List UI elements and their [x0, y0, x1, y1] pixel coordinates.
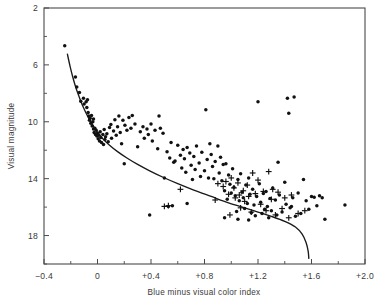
color-magnitude-diagram: −0.40+0.4+0.8+1.2+1.6+2.0 26101418 Blue … — [0, 0, 383, 305]
data-point-dot — [235, 210, 239, 214]
data-point-dot — [86, 98, 90, 102]
data-point-dot — [120, 142, 124, 146]
data-point-dot — [173, 159, 177, 163]
data-point-dot — [131, 114, 135, 118]
data-point-dot — [343, 203, 347, 207]
data-point-dot — [283, 180, 287, 184]
data-point-dot — [86, 111, 90, 115]
data-point-dot — [184, 171, 188, 175]
data-point-dot — [90, 114, 94, 118]
data-point-dot — [247, 218, 251, 222]
data-point-dot — [99, 136, 103, 140]
data-point-dot — [200, 151, 204, 155]
data-point-dot — [204, 108, 208, 112]
y-axis-label: Visual magnitude — [7, 102, 16, 169]
data-point-dot — [117, 114, 121, 118]
data-point-dot — [290, 205, 294, 209]
data-point-dot — [102, 128, 106, 132]
data-point-dot — [123, 124, 127, 128]
x-tick-label: +1.6 — [303, 271, 321, 281]
data-point-dot — [102, 143, 106, 147]
data-point-dot — [92, 117, 96, 121]
x-tick-label: +2.0 — [356, 271, 374, 281]
data-point-dot — [209, 153, 213, 157]
data-point-dot — [266, 205, 270, 209]
data-point-dot — [203, 169, 207, 173]
data-point-dot — [148, 213, 152, 217]
data-point-dot — [223, 189, 227, 193]
data-point-dot — [270, 209, 274, 213]
data-point-dot — [227, 173, 231, 177]
data-point-dot — [211, 165, 215, 169]
data-point-dot — [236, 217, 240, 221]
data-point-dot — [276, 161, 280, 165]
y-tick-label: 6 — [33, 60, 38, 70]
data-point-dot — [112, 129, 116, 133]
data-point-dot — [82, 97, 86, 101]
data-point-dot — [75, 85, 79, 89]
x-tick-label: +1.2 — [249, 271, 267, 281]
data-point-dot — [114, 134, 118, 138]
data-point-dot — [286, 97, 290, 101]
data-point-dot — [169, 141, 173, 145]
data-point-dot — [63, 44, 67, 48]
data-point-dot — [192, 155, 196, 159]
data-point-dot — [256, 100, 260, 104]
data-point-dot — [139, 130, 143, 134]
data-point-dot — [252, 203, 256, 207]
data-point-dot — [251, 188, 255, 192]
data-point-dot — [79, 99, 83, 103]
data-point-dot — [315, 204, 319, 208]
data-point-dot — [143, 136, 147, 140]
x-tick-label: 0 — [95, 271, 100, 281]
data-point-dot — [183, 157, 187, 161]
data-point-dot — [239, 172, 243, 176]
data-point-dot — [109, 123, 113, 127]
data-point-dot — [199, 175, 203, 179]
data-point-dot — [110, 136, 114, 140]
data-point-dot — [267, 216, 271, 220]
data-point-dot — [254, 214, 258, 218]
data-point-dot — [294, 215, 298, 219]
data-point-dot — [284, 203, 288, 207]
data-point-dot — [168, 156, 172, 160]
data-point-dot — [195, 144, 199, 148]
data-point-dot — [136, 145, 140, 149]
x-tick-label: +0.8 — [196, 271, 214, 281]
data-point-dot — [246, 202, 250, 206]
data-point-dot — [125, 129, 128, 133]
data-point-dot — [161, 131, 165, 135]
data-point-dot — [238, 199, 242, 203]
data-point-dot — [105, 132, 109, 136]
data-point-dot — [176, 143, 180, 147]
y-tick-label: 10 — [28, 117, 38, 127]
data-point-dot — [151, 139, 155, 143]
x-tick-label: −0.4 — [35, 271, 53, 281]
data-point-dot — [320, 196, 324, 200]
data-point-dot — [304, 199, 308, 203]
data-point-dot — [74, 75, 78, 79]
y-tick-label: 18 — [28, 231, 38, 241]
data-point-dot — [247, 176, 251, 180]
data-point-dot — [98, 130, 102, 134]
data-point-dot — [225, 198, 229, 202]
data-point-dot — [217, 171, 221, 175]
data-point-dot — [157, 114, 161, 118]
data-point-dot — [106, 140, 110, 144]
data-point-dot — [116, 125, 120, 129]
data-point-dot — [223, 216, 227, 220]
data-point-dot — [145, 127, 149, 131]
data-point-dot — [185, 146, 189, 150]
data-point-dot — [163, 176, 167, 180]
data-point-dot — [219, 156, 223, 160]
data-point-dot — [185, 202, 189, 206]
data-point-dot — [118, 131, 122, 135]
data-point-dot — [191, 178, 195, 182]
data-point-dot — [127, 116, 131, 120]
data-point-dot — [180, 166, 184, 170]
data-point-dot — [179, 153, 183, 157]
y-tick-label: 2 — [33, 3, 38, 13]
x-tick-label: +0.4 — [142, 271, 160, 281]
x-axis-label: Blue minus visual color index — [148, 288, 261, 297]
data-point-dot — [189, 163, 193, 167]
